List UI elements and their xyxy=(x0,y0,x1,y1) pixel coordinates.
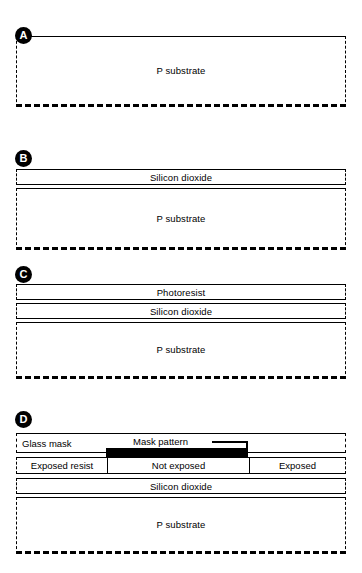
panel-c-photoresist: Photoresist xyxy=(16,284,346,300)
panel-badge-d: D xyxy=(15,411,32,428)
panel-d-p-substrate-label: P substrate xyxy=(157,519,206,530)
panel-d-exposed-resist-right: Exposed xyxy=(249,458,345,473)
panel-d-resist-row: Exposed resist Not exposed Exposed xyxy=(16,457,346,474)
panel-b-p-substrate-label: P substrate xyxy=(157,213,206,224)
panel-a-p-substrate-label: P substrate xyxy=(157,65,206,76)
panel-d-exposed-resist-right-label: Exposed xyxy=(279,460,316,471)
mask-pattern-leader-elbow xyxy=(246,441,248,452)
panel-d-glass-mask-label: Glass mask xyxy=(22,438,72,449)
panel-badge-a: A xyxy=(15,27,32,44)
panel-badge-b: B xyxy=(15,150,32,167)
panel-d-not-exposed-region: Not exposed xyxy=(107,458,249,473)
panel-d-p-substrate: P substrate xyxy=(16,497,346,554)
mask-pattern-leader-line xyxy=(212,441,248,443)
panel-b-silicon-dioxide: Silicon dioxide xyxy=(16,169,346,185)
panel-d-mask-pattern-bar xyxy=(106,448,248,457)
panel-badge-c: C xyxy=(15,266,32,283)
panel-d-mask-pattern-label: Mask pattern xyxy=(133,436,188,447)
panel-d-exposed-resist-left: Exposed resist xyxy=(17,458,107,473)
panel-a-p-substrate: P substrate xyxy=(16,36,346,107)
panel-c-silicon-dioxide-label: Silicon dioxide xyxy=(150,306,212,317)
panel-d-exposed-resist-left-label: Exposed resist xyxy=(31,460,93,471)
panel-d-silicon-dioxide: Silicon dioxide xyxy=(16,478,346,494)
panel-c-silicon-dioxide: Silicon dioxide xyxy=(16,303,346,319)
panel-c-photoresist-label: Photoresist xyxy=(157,287,206,298)
panel-c-p-substrate: P substrate xyxy=(16,322,346,379)
panel-b-silicon-dioxide-label: Silicon dioxide xyxy=(150,172,212,183)
panel-c-p-substrate-label: P substrate xyxy=(157,344,206,355)
panel-b-p-substrate: P substrate xyxy=(16,188,346,250)
figure-canvas: A P substrate B Silicon dioxide P substr… xyxy=(0,0,362,573)
panel-d-silicon-dioxide-label: Silicon dioxide xyxy=(150,481,212,492)
panel-d-not-exposed-label: Not exposed xyxy=(152,460,205,471)
